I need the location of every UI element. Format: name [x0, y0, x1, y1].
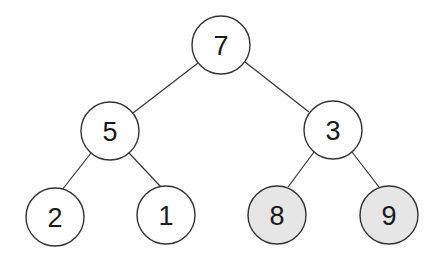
- node-label: 9: [381, 201, 396, 231]
- tree-node-2: 2: [26, 188, 84, 246]
- node-label: 8: [269, 201, 284, 231]
- node-label: 3: [325, 116, 340, 146]
- node-label: 7: [213, 31, 228, 61]
- edge-5-1: [129, 153, 161, 187]
- binary-tree-diagram: 7 5 3 2 1 8 9: [0, 0, 447, 263]
- edge-3-9: [352, 152, 379, 187]
- edge-7-3: [245, 62, 309, 112]
- tree-node-9-highlighted: 9: [360, 186, 418, 244]
- node-label: 5: [102, 117, 117, 147]
- tree-node-5: 5: [81, 102, 139, 160]
- tree-node-3: 3: [304, 101, 362, 159]
- edge-3-8: [288, 152, 314, 187]
- node-label: 2: [47, 203, 62, 233]
- node-label: 1: [158, 201, 173, 231]
- edge-7-5: [133, 63, 198, 113]
- edge-5-2: [62, 153, 91, 190]
- tree-node-8-highlighted: 8: [248, 186, 306, 244]
- tree-node-7: 7: [192, 16, 250, 74]
- tree-node-1: 1: [137, 186, 195, 244]
